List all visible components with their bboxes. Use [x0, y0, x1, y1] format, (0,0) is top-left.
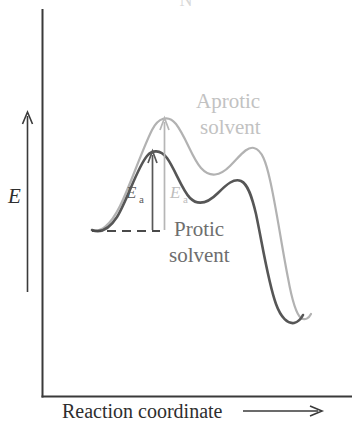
ea-label-aprotic: E a [169, 183, 188, 205]
svg-text:Protic: Protic [174, 217, 224, 241]
label-protic-solvent: Protic solvent [169, 217, 230, 267]
svg-text:a: a [183, 193, 188, 205]
energy-direction-arrow [23, 112, 33, 292]
x-axis-label: Reaction coordinate [62, 400, 223, 422]
svg-text:Aprotic: Aprotic [196, 89, 260, 113]
ea-arrow-protic [148, 151, 157, 230]
svg-text:solvent: solvent [169, 243, 230, 267]
y-axis-label: E [7, 184, 21, 208]
svg-text:a: a [139, 193, 144, 205]
svg-text:E: E [125, 183, 137, 202]
ea-label-protic: E a [125, 183, 144, 205]
reaction-energy-diagram: N E E a [0, 0, 363, 426]
clipped-top-glyph: N [180, 0, 193, 10]
x-axis-label-arrow-icon [243, 406, 322, 416]
svg-text:solvent: solvent [200, 115, 261, 139]
label-aprotic-solvent: Aprotic solvent [196, 89, 261, 139]
svg-text:E: E [169, 183, 181, 202]
ea-arrow-aprotic [160, 118, 169, 230]
